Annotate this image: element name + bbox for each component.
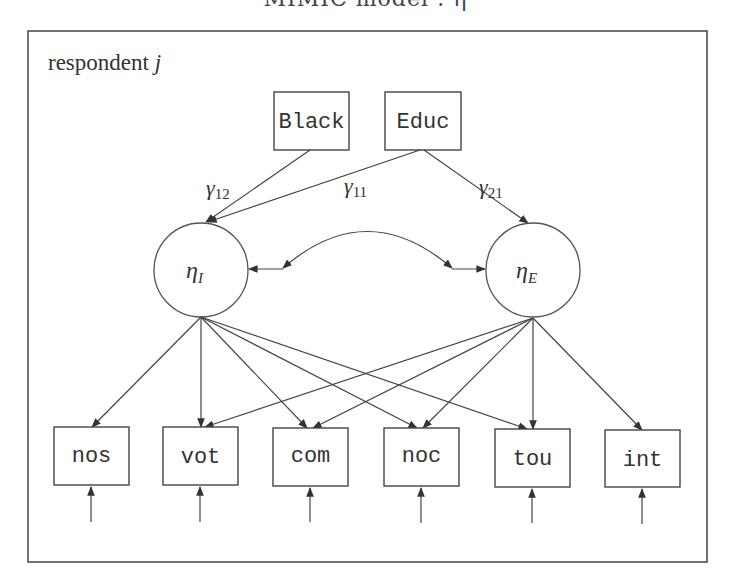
covariance-arrow [249,232,485,270]
covariate-box-educ: Educ [385,92,461,150]
covariate-box-black: Black [274,92,349,150]
path-educ-to-eta-e [424,150,528,223]
svg-text:noc: noc [402,444,442,469]
svg-text:tou: tou [513,447,553,472]
coef-gamma-11: γ11 [344,173,367,200]
loadings-eta-e [205,318,642,430]
coef-gamma-21: γ21 [479,174,503,201]
svg-text:int: int [623,448,663,473]
svg-text:Educ: Educ [397,110,450,135]
latent-eta-e: ηE [486,223,580,317]
svg-text:com: com [291,444,331,469]
indicator-box-com: com [273,428,348,486]
svg-text:vot: vot [181,445,221,470]
indicator-box-int: int [605,430,680,487]
latent-eta-i: ηI [154,223,248,317]
coef-gamma-12: γ12 [206,175,230,202]
loadings-eta-i [92,317,527,429]
indicator-box-vot: vot [163,427,238,485]
svg-text:nos: nos [72,444,112,469]
mimic-path-diagram: respondent j Black Educ γ12 γ11 γ21 ηI η… [0,0,731,584]
error-arrows [91,487,642,524]
indicator-box-nos: nos [54,427,129,485]
indicator-box-tou: tou [495,429,570,487]
path-educ-to-eta-i [208,150,420,222]
svg-text:Black: Black [278,110,344,135]
plate-label: respondent j [48,50,161,75]
indicator-box-noc: noc [384,428,459,486]
